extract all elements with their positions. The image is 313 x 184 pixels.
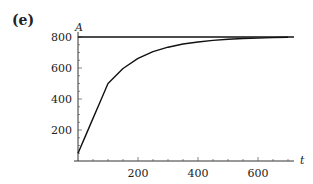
x-tick-label: 400 [188,167,209,180]
y-tick-label: 400 [51,93,72,106]
y-tick-label: 200 [51,124,72,137]
y-tick-label: 800 [51,31,72,44]
data-curve [78,37,288,153]
x-tick-label: 200 [128,167,149,180]
x-axis-label: t [300,154,305,167]
y-tick-label: 600 [51,62,72,75]
x-tick-label: 600 [248,167,269,180]
line-chart: 200400600200400600800tA [0,0,313,184]
y-axis-label: A [74,21,83,34]
